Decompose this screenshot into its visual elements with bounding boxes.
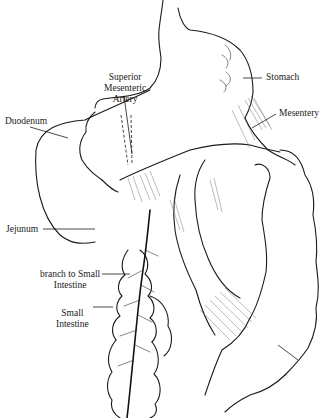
label-line: Mesenteric xyxy=(104,83,146,94)
artery-shape xyxy=(118,115,158,418)
label-line: Intestine xyxy=(40,280,100,291)
diagram-illustration xyxy=(0,0,330,418)
label-small-intestine: Small Intestine xyxy=(56,308,89,330)
label-mesentery: Mesentery xyxy=(279,108,319,119)
unlabeled-leader xyxy=(278,345,298,360)
label-line: Intestine xyxy=(56,319,89,330)
label-stomach: Stomach xyxy=(266,72,299,83)
anatomy-diagram: Superior Mesenteric Artery Stomach Duode… xyxy=(0,0,330,418)
duodenum-shape xyxy=(36,90,150,243)
label-line: branch to Small xyxy=(40,269,100,280)
label-line: Artery xyxy=(104,94,146,105)
label-branch-to-small-intestine: branch to Small Intestine xyxy=(40,269,100,291)
label-duodenum: Duodenum xyxy=(5,116,47,127)
colon-shape xyxy=(170,150,318,412)
label-line: Small xyxy=(56,308,89,319)
mesentery-shape xyxy=(120,96,295,202)
duodenum-leader xyxy=(30,127,68,138)
label-line: Superior xyxy=(104,72,146,83)
label-jejunum: Jejunum xyxy=(6,224,38,235)
label-superior-mesenteric-artery: Superior Mesenteric Artery xyxy=(104,72,146,105)
small-intestine-shape xyxy=(108,250,172,418)
